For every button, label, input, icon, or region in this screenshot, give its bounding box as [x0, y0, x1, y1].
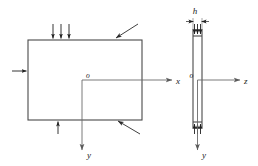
- top-edge-load-arrows: [53, 24, 69, 39]
- z-axis-label: z: [243, 76, 248, 86]
- origin-label-right: o: [190, 71, 194, 80]
- y-axis-label-right: y: [201, 150, 206, 160]
- engineering-diagram: x y o h: [0, 0, 258, 166]
- y-axis-label-left: y: [86, 150, 91, 160]
- front-view: x y o: [12, 24, 180, 160]
- edge-view: h z y o: [186, 6, 248, 160]
- top-edge-leader: [116, 24, 138, 38]
- thickness-label: h: [193, 6, 198, 16]
- bottom-edge-leader: [118, 121, 140, 134]
- edge-view-top-load-arrows: [193, 24, 202, 36]
- origin-label-left: o: [86, 71, 90, 80]
- x-axis-label: x: [175, 76, 180, 86]
